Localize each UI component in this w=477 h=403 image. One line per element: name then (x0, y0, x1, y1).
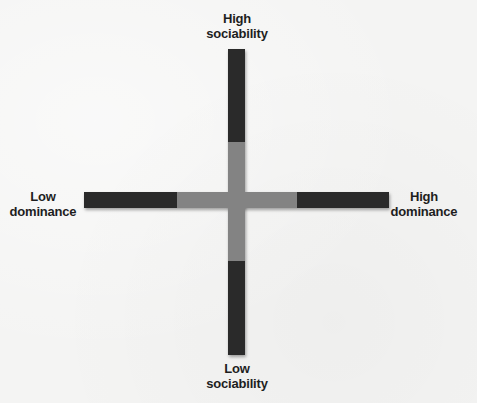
label-high-sociability-line1: High (177, 11, 297, 26)
label-high-dominance-line2: dominance (374, 204, 474, 219)
label-low-sociability: Low sociability (177, 361, 297, 391)
label-low-dominance: Low dominance (0, 189, 93, 219)
label-low-dominance-line1: Low (0, 189, 93, 204)
label-high-sociability: High sociability (177, 11, 297, 41)
label-low-sociability-line1: Low (177, 361, 297, 376)
label-low-sociability-line2: sociability (177, 376, 297, 391)
label-high-sociability-line2: sociability (177, 26, 297, 41)
label-high-dominance: High dominance (374, 189, 474, 219)
label-high-dominance-line1: High (374, 189, 474, 204)
label-low-dominance-line2: dominance (0, 204, 93, 219)
axes-intersection (228, 142, 245, 261)
